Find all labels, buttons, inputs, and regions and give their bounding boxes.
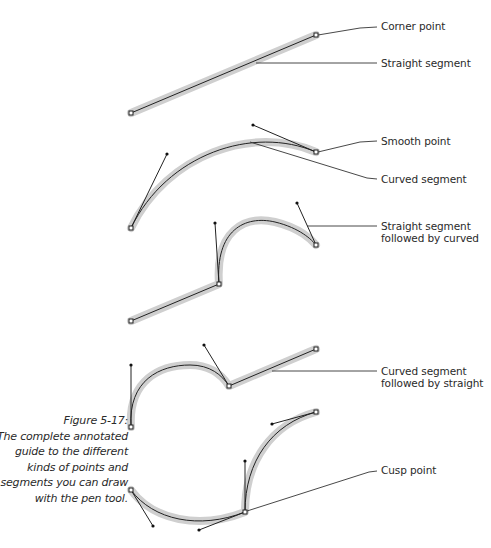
smooth-point-anchor — [314, 150, 318, 154]
shape-straight-segment — [129, 33, 318, 115]
leader-corner-point — [318, 27, 377, 35]
label-curved-segment: Curved segment — [381, 173, 467, 185]
label-cusp-point: Cusp point — [381, 464, 436, 476]
label-straight-segment: Straight segment — [381, 57, 471, 69]
figure-caption: Figure 5-17: The complete annotated guid… — [0, 413, 128, 506]
shape-curved-segment — [129, 123, 318, 230]
label-curved-then-straight: Curved segment followed by straight — [381, 365, 483, 389]
leader-cusp-point — [247, 471, 377, 511]
figure-caption-text: The complete annotated guide to the diff… — [0, 429, 128, 507]
corner-point-anchor — [129, 111, 133, 115]
shape-straight-then-curved — [129, 201, 318, 323]
label-smooth-point: Smooth point — [381, 135, 450, 147]
smooth-point-anchor — [129, 226, 133, 230]
shape-cusp-point — [129, 410, 318, 532]
leader-smooth-point — [318, 141, 377, 152]
label-straight-then-curved: Straight segment followed by curved — [381, 220, 479, 244]
corner-point-anchor — [314, 33, 318, 37]
figure-number: Figure 5-17: — [0, 413, 128, 429]
shape-curved-then-straight — [129, 343, 318, 429]
label-corner-point: Corner point — [381, 20, 445, 32]
cusp-point-anchor — [243, 510, 247, 514]
